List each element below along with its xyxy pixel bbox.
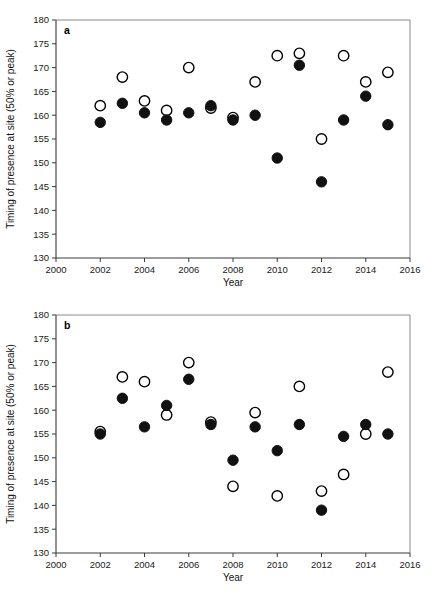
x-axis-tick-label: 2000 — [45, 264, 66, 275]
data-point-filled — [228, 115, 238, 125]
data-point-filled — [316, 505, 326, 515]
data-point-open — [184, 62, 194, 72]
data-point-filled — [228, 455, 238, 465]
data-point-open — [117, 372, 127, 382]
y-axis-tick-label: 145 — [33, 476, 49, 487]
panel-label-a: a — [64, 24, 70, 36]
x-axis-tick-label: 2000 — [45, 559, 66, 570]
y-axis-tick-label: 175 — [33, 333, 49, 344]
data-point-filled — [95, 117, 105, 127]
panel-b: 1301351401451501551601651701751802000200… — [0, 295, 435, 585]
y-axis-tick-label: 165 — [33, 381, 49, 392]
x-axis-tick-label: 2010 — [267, 559, 288, 570]
data-point-filled — [316, 177, 326, 187]
y-axis-tick-label: 170 — [33, 357, 49, 368]
y-axis-title: Timing of presence at site (50% or peak) — [5, 344, 16, 524]
data-point-filled — [184, 108, 194, 118]
data-point-open — [228, 481, 238, 491]
x-axis-tick-label: 2004 — [134, 264, 155, 275]
y-axis-tick-label: 135 — [33, 229, 49, 240]
data-point-filled — [272, 153, 282, 163]
data-point-filled — [250, 110, 260, 120]
x-axis-tick-label: 2012 — [311, 559, 332, 570]
data-point-open — [316, 134, 326, 144]
data-point-open — [294, 381, 304, 391]
data-point-filled — [383, 120, 393, 130]
data-point-filled — [294, 419, 304, 429]
y-axis-tick-label: 130 — [33, 252, 49, 263]
data-point-filled — [184, 374, 194, 384]
data-point-filled — [139, 108, 149, 118]
data-point-filled — [338, 431, 348, 441]
data-point-open — [139, 376, 149, 386]
plot-axes — [56, 20, 410, 258]
x-axis-tick-label: 2008 — [222, 559, 243, 570]
panel-label-b: b — [64, 319, 70, 331]
scatter-plot-a: 1301351401451501551601651701751802000200… — [0, 0, 435, 290]
data-point-filled — [272, 445, 282, 455]
figure-container: 1301351401451501551601651701751802000200… — [0, 0, 435, 599]
x-axis-tick-label: 2008 — [222, 264, 243, 275]
data-point-open — [161, 105, 171, 115]
data-point-filled — [361, 419, 371, 429]
data-point-open — [383, 367, 393, 377]
x-axis-tick-label: 2014 — [355, 559, 376, 570]
data-point-open — [294, 48, 304, 58]
data-point-filled — [117, 98, 127, 108]
y-axis-tick-label: 130 — [33, 547, 49, 558]
data-point-open — [316, 486, 326, 496]
y-axis-tick-label: 160 — [33, 405, 49, 416]
data-point-filled — [250, 422, 260, 432]
data-point-open — [338, 51, 348, 61]
data-point-filled — [294, 60, 304, 70]
x-axis-tick-label: 2012 — [311, 264, 332, 275]
plot-axes — [56, 315, 410, 553]
y-axis-tick-label: 140 — [33, 205, 49, 216]
data-point-open — [383, 67, 393, 77]
data-point-open — [272, 51, 282, 61]
scatter-plot-b: 1301351401451501551601651701751802000200… — [0, 295, 435, 585]
y-axis-tick-label: 155 — [33, 133, 49, 144]
data-point-filled — [161, 400, 171, 410]
data-point-open — [139, 96, 149, 106]
x-axis-tick-label: 2004 — [134, 559, 155, 570]
data-point-filled — [161, 115, 171, 125]
data-point-filled — [361, 91, 371, 101]
x-axis-tick-label: 2014 — [355, 264, 376, 275]
data-point-filled — [95, 429, 105, 439]
data-point-open — [117, 72, 127, 82]
data-point-filled — [206, 419, 216, 429]
y-axis-tick-label: 165 — [33, 86, 49, 97]
data-point-open — [272, 491, 282, 501]
data-point-filled — [338, 115, 348, 125]
plot-frame — [56, 20, 410, 258]
data-point-filled — [139, 422, 149, 432]
plot-frame — [56, 315, 410, 553]
y-axis-tick-label: 150 — [33, 452, 49, 463]
y-axis-tick-label: 140 — [33, 500, 49, 511]
data-point-open — [338, 469, 348, 479]
y-axis-tick-label: 155 — [33, 428, 49, 439]
x-axis-tick-label: 2006 — [178, 264, 199, 275]
y-axis-tick-label: 180 — [33, 14, 49, 25]
y-axis-tick-label: 175 — [33, 38, 49, 49]
y-axis-tick-label: 150 — [33, 157, 49, 168]
x-axis-tick-label: 2016 — [399, 559, 420, 570]
panel-a: 1301351401451501551601651701751802000200… — [0, 0, 435, 290]
y-axis-tick-label: 170 — [33, 62, 49, 73]
data-point-open — [184, 357, 194, 367]
data-point-filled — [117, 393, 127, 403]
y-axis-tick-label: 135 — [33, 524, 49, 535]
data-point-open — [95, 100, 105, 110]
x-axis-tick-label: 2010 — [267, 264, 288, 275]
x-axis-title: Year — [223, 277, 244, 288]
y-axis-tick-label: 145 — [33, 181, 49, 192]
data-point-open — [361, 77, 371, 87]
x-axis-tick-label: 2002 — [90, 559, 111, 570]
x-axis-tick-label: 2002 — [90, 264, 111, 275]
data-point-open — [161, 410, 171, 420]
data-point-filled — [206, 100, 216, 110]
x-axis-tick-label: 2006 — [178, 559, 199, 570]
y-axis-tick-label: 180 — [33, 309, 49, 320]
x-axis-tick-label: 2016 — [399, 264, 420, 275]
